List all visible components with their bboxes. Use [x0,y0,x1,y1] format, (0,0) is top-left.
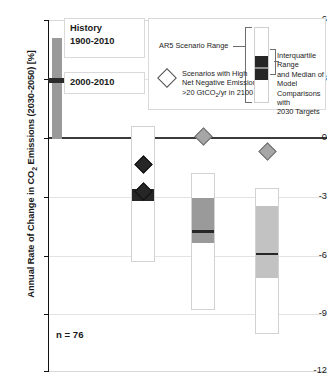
y-tick-0: 0 [305,132,327,142]
gridline-neg6 [49,256,327,257]
history-bar [52,38,62,139]
y-axis-label: Annual Rate of Change in CO2 Emissions (… [26,14,38,334]
y-axis-line [48,20,49,372]
history-caption-box: History 1900-2010 [64,18,145,58]
interquartile-range [256,206,278,278]
y-axis-label-sub: 2 [31,167,38,171]
legend-iqr-lower [255,69,268,80]
y-tick-neg6: -6 [305,250,327,260]
ar5-scenario-range-box [191,173,215,310]
y-axis-label-pre: Annual Rate of Change in CO [26,171,36,298]
gridline-neg9 [49,314,327,315]
diamond-icon [157,68,177,88]
interquartile-range [192,198,214,243]
legend-specimen-bar [254,27,269,103]
legend-median-line [255,67,268,69]
chart-canvas: Annual Rate of Change in CO2 Emissions (… [0,0,327,376]
y-tick-neg9: -9 [305,308,327,318]
ar5-scenario-range-box [255,188,279,334]
legend-right-bracket [270,49,276,75]
legend-scenarios-line2: Net Negative Emissions [182,78,260,87]
high-net-negative-emissions-diamond [194,127,212,145]
cropped-top-text [60,0,63,8]
y-tick-neg12: -12 [305,365,327,375]
median-line [192,230,214,233]
legend-scenarios-line3-pre: >20 GtCO [182,88,215,97]
history-marker-caption-box: 2000-2010 [64,72,145,94]
sample-size-label: n = 76 [56,329,83,340]
legend-iqr-line3: Comparisons with [277,89,321,107]
legend-iqr-label: Interquartile Range and Median of Model … [277,51,325,117]
history-title-line2: 1900-2010 [70,36,114,48]
history-title-line1: History [70,23,102,35]
legend-iqr-upper [255,56,268,67]
gridline-neg3 [49,197,327,198]
zero-line [49,137,327,139]
median-line [256,253,278,256]
legend-iqr-line2: and Median of Model [277,70,324,88]
y-tick-neg3: -3 [305,191,327,201]
y-axis-label-post: Emissions (2030-2050) [%] [26,50,36,167]
legend-ar5-range-label: AR5 Scenario Range [159,41,237,50]
plot-bottom-border [49,371,327,372]
legend-scenarios-line1: Scenarios with High [182,69,247,78]
legend-iqr-line1: Interquartile Range [277,51,316,69]
legend-scenarios-line3-post: /yr in 2100 [219,88,254,97]
legend-iqr-line4: 2030 Targets [277,107,320,116]
high-net-negative-emissions-diamond [258,142,276,160]
history-marker-label: 2000-2010 [70,77,114,87]
legend-box: AR5 Scenario Range Scenarios with High N… [148,18,326,110]
